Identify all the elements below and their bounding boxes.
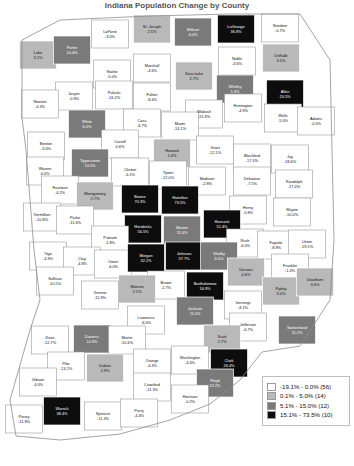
county-steuben	[262, 14, 299, 42]
county-harrison	[172, 385, 209, 413]
map-legend: -19.1% - 0.0% (56) 0.1% - 5.0% (14) 5.1%…	[262, 376, 350, 426]
legend-label: 0.1% - 5.0% (14)	[280, 392, 326, 400]
county-daviess	[74, 325, 111, 353]
county-jackson	[177, 297, 214, 325]
legend-item: 0.1% - 5.0% (14)	[267, 392, 345, 400]
county-huntington	[225, 94, 262, 122]
county-laporte	[92, 20, 129, 48]
legend-swatch	[267, 411, 276, 419]
county-lake	[20, 41, 57, 69]
county-bartholomew	[187, 272, 224, 300]
county-gibson	[20, 368, 57, 396]
county-wayne	[274, 198, 311, 226]
legend-item: 15.1% - 73.5% (10)	[267, 411, 345, 419]
county-spencer	[85, 402, 122, 430]
county-elkhart	[175, 18, 212, 46]
county-miami	[162, 112, 199, 140]
county-crawford	[134, 373, 171, 401]
county-randolph	[276, 170, 313, 198]
county-noble	[219, 47, 256, 75]
county-vermillion	[24, 203, 61, 231]
county-posey	[6, 405, 43, 433]
county-lagrange	[218, 15, 255, 43]
county-delaware	[234, 167, 271, 195]
county-owen	[95, 250, 132, 278]
county-parke	[57, 206, 94, 234]
county-st-joseph	[134, 15, 171, 43]
county-greene	[82, 281, 119, 309]
county-dekalb	[263, 44, 300, 72]
county-wells	[265, 104, 302, 132]
legend-label: 5.1% - 15.0% (12)	[280, 402, 329, 410]
county-tippecanoe	[72, 149, 109, 177]
legend-swatch	[267, 392, 276, 400]
county-monroe	[119, 275, 156, 303]
county-dubois	[87, 354, 124, 382]
county-kosciusko	[176, 62, 213, 90]
county-knox	[32, 326, 69, 354]
county-johnson	[166, 242, 203, 270]
county-fulton	[134, 83, 171, 111]
legend-label: -19.1% - 0.0% (56)	[280, 383, 331, 391]
county-benton	[28, 132, 65, 160]
county-sullivan	[37, 267, 74, 295]
county-white	[69, 110, 106, 138]
county-grant	[197, 136, 234, 164]
county-dearborn	[297, 268, 334, 296]
county-switzerland	[279, 316, 316, 344]
county-hamilton	[162, 186, 199, 214]
county-marshall	[134, 54, 171, 82]
legend-label: 15.1% - 73.5% (10)	[280, 411, 333, 419]
county-clinton	[112, 158, 149, 186]
county-adams	[298, 107, 335, 135]
legend-item: 5.1% - 15.0% (12)	[267, 402, 345, 410]
legend-swatch	[267, 402, 276, 410]
county-boone	[122, 185, 159, 213]
county-jay	[272, 145, 309, 173]
county-warrick	[44, 397, 81, 425]
county-decatur	[228, 258, 265, 286]
county-pulaski	[96, 81, 133, 109]
county-marion	[164, 216, 201, 244]
legend-item: -19.1% - 0.0% (56)	[267, 383, 345, 391]
county-porter	[54, 36, 91, 64]
legend-swatch	[267, 383, 276, 391]
county-jasper	[56, 82, 93, 110]
indiana-population-map: Indiana Population Change by County ⌖ La…	[0, 0, 354, 466]
county-ripley	[263, 277, 300, 305]
county-newton	[22, 90, 59, 118]
county-fountain	[42, 176, 79, 204]
county-perry	[121, 399, 158, 427]
county-morgan	[128, 244, 165, 272]
county-hendricks	[125, 215, 162, 243]
county-polygons	[6, 14, 335, 433]
